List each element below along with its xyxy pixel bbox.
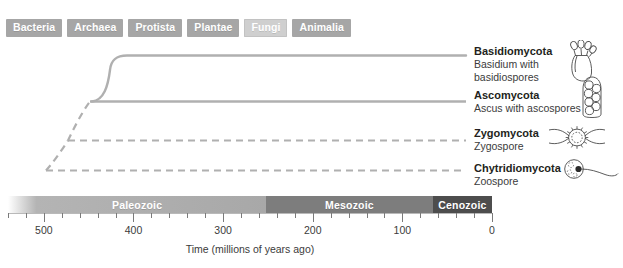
axis-tick	[259, 213, 260, 218]
axis-tick	[133, 213, 134, 222]
axis-tick	[420, 213, 421, 218]
axis-tick	[295, 213, 296, 218]
leaf-name-zygomycota: Zygomycota	[474, 127, 539, 140]
axis-tick	[313, 213, 314, 222]
leaf-label-chytridiomycota: Chytridiomycota Zoospore	[474, 162, 561, 188]
axis-tick-label: 0	[489, 224, 495, 236]
axis-tick	[241, 213, 242, 218]
leaf-label-ascomycota: Ascomycota Ascus with ascospores	[474, 89, 581, 115]
axis-tick	[169, 213, 170, 218]
axis-tick	[80, 213, 81, 218]
axis-tick	[384, 213, 385, 218]
axis-tick	[474, 213, 475, 218]
axis-caption: Time (millions of years ago)	[0, 243, 500, 255]
axis-tick	[367, 213, 368, 218]
tree-branch-dikarya-stem	[68, 102, 90, 141]
geologic-timeline: PaleozoicMesozoicCenozoic	[8, 196, 492, 213]
leaf-desc-zygomycota: Zygospore	[474, 140, 539, 153]
leaf-label-basidiomycota: Basidiomycota Basidium with basidiospore…	[474, 45, 552, 83]
axis-tick-label: 400	[125, 224, 143, 236]
axis-tick-label: 200	[304, 224, 322, 236]
axis-tick	[223, 213, 224, 222]
axis-tick	[331, 213, 332, 218]
axis-tick	[349, 213, 350, 218]
leaf-desc-ascomycota: Ascus with ascospores	[474, 102, 581, 115]
axis-tick-label: 500	[35, 224, 53, 236]
axis-tick	[187, 213, 188, 218]
axis-tick	[205, 213, 206, 218]
leaf-desc-basidiomycota-line1: Basidium with	[474, 58, 552, 71]
era-cenozoic: Cenozoic	[433, 196, 492, 213]
leaf-name-ascomycota: Ascomycota	[474, 89, 581, 102]
axis-tick	[62, 213, 63, 218]
axis-tick-label: 100	[394, 224, 412, 236]
axis-tick	[456, 213, 457, 218]
axis-tick	[98, 213, 99, 218]
leaf-name-basidiomycota: Basidiomycota	[474, 45, 552, 58]
axis-tick	[8, 213, 9, 218]
axis-tick	[402, 213, 403, 222]
zoospore-illustration	[563, 158, 619, 180]
era-mesozoic: Mesozoic	[266, 196, 433, 213]
tree-branch-zygomycota-stem	[46, 141, 68, 171]
era-bar: PaleozoicMesozoicCenozoic	[8, 196, 492, 213]
axis-tick	[277, 213, 278, 218]
leaf-desc-chytridiomycota: Zoospore	[474, 175, 561, 188]
leaf-label-zygomycota: Zygomycota Zygospore	[474, 127, 539, 153]
axis-tick	[492, 213, 493, 222]
era-paleozoic: Paleozoic	[8, 196, 266, 213]
tree-branch-basidiomycota	[92, 56, 466, 102]
leaf-name-chytridiomycota: Chytridiomycota	[474, 162, 561, 175]
axis-tick	[26, 213, 27, 218]
axis-tick	[44, 213, 45, 222]
axis-tick	[116, 213, 117, 218]
axis-tick-label: 300	[214, 224, 232, 236]
ascus-illustration	[577, 76, 607, 118]
time-axis	[8, 213, 492, 223]
leaf-desc-basidiomycota-line2: basidiospores	[474, 71, 552, 84]
axis-tick	[151, 213, 152, 218]
zygospore-illustration	[548, 124, 606, 152]
axis-tick	[438, 213, 439, 218]
